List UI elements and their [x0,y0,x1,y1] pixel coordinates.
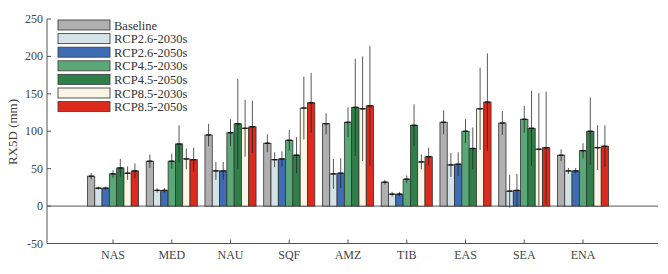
bar-group-amz [322,46,373,206]
bar [381,182,388,206]
bar-group-nau [205,79,256,206]
legend-item: RCP2.6-2030s [58,32,187,46]
x-tick-label: SQF [278,248,300,262]
y-tick-label: 50 [31,162,43,176]
y-tick-label: 200 [25,49,43,63]
bar-group-tib [381,104,432,206]
legend-swatch [58,102,110,112]
x-tick-label: AMZ [335,248,362,262]
legend-label: RCP8.5-2050s [114,100,187,114]
legend-swatch [58,20,110,30]
y-tick-label: 150 [25,87,43,101]
legend-item: RCP4.5-2050s [58,73,187,87]
legend-swatch [58,34,110,44]
x-axis-labels: NASMEDNAUSQFAMZTIBEASSEAENA [101,240,596,263]
x-tick-label: TIB [397,248,416,262]
bar [557,155,564,206]
legend-label: RCP2.6-2030s [114,32,187,46]
bar-group-sea [499,91,550,208]
y-tick-label: 250 [25,12,43,26]
legend-label: RCP4.5-2030s [114,59,187,73]
y-tick-label: 100 [25,124,43,138]
legend-item: RCP8.5-2050s [58,100,187,114]
legend-label: RCP4.5-2050s [114,73,187,87]
x-tick-label: ENA [571,248,596,262]
bar [572,171,579,206]
legend-label: RCP8.5-2030s [114,87,187,101]
x-tick-label: SEA [513,248,536,262]
bar [154,190,161,206]
legend-swatch [58,88,110,98]
legend-label: RCP2.6-2050s [114,46,187,60]
bar [579,151,586,206]
legend: BaselineRCP2.6-2030sRCP2.6-2050sRCP4.5-2… [58,19,187,115]
y-tick-label: -50 [27,237,43,251]
legend-item: RCP8.5-2030s [58,87,187,101]
legend-item: Baseline [58,19,157,33]
bar-group-med [146,125,197,206]
legend-label: Baseline [114,19,157,33]
bar [403,179,410,206]
x-tick-label: MED [158,248,185,262]
bar-group-ena [557,98,608,207]
y-tick-label: 0 [37,199,43,213]
legend-item: RCP4.5-2030s [58,59,187,73]
bar [102,188,109,206]
bar [87,176,94,206]
bar [322,124,329,206]
bar [440,122,447,206]
x-tick-label: NAS [101,248,125,262]
bar-group-sqf [264,73,315,206]
bar-chart: -50050100150200250 NASMEDNAUSQFAMZTIBEAS… [0,0,668,274]
bar [264,143,271,206]
bar [161,190,168,206]
y-axis-label: RX5D (mm) [5,99,20,165]
bar [109,174,116,206]
x-tick-label: NAU [218,248,244,262]
legend-item: RCP2.6-2050s [58,46,187,60]
legend-swatch [58,47,110,57]
x-tick-label: EAS [454,248,477,262]
legend-swatch [58,61,110,71]
bar [95,188,102,206]
bar [499,123,506,206]
bar-group-nas [87,159,138,206]
bar [565,171,572,206]
legend-swatch [58,74,110,84]
bar-group-eas [440,53,491,206]
